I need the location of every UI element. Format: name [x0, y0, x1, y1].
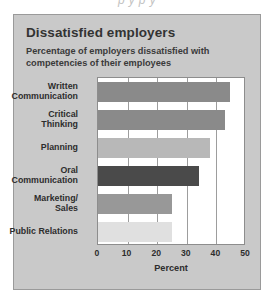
category-label: WrittenCommunication	[0, 81, 78, 101]
category-label: OralCommunication	[0, 165, 78, 185]
category-label: Marketing/Sales	[0, 193, 78, 213]
x-tick-label: 0	[95, 248, 100, 258]
clipped-caption-above-figure: p y p y	[0, 0, 274, 13]
bar	[98, 110, 225, 130]
bar-row	[98, 106, 246, 134]
bar	[98, 138, 210, 158]
bar-row	[98, 162, 246, 190]
chart-card: Dissatisfied employers Percentage of emp…	[13, 14, 261, 290]
category-label: CriticalThinking	[0, 109, 78, 129]
chart-subtitle: Percentage of employers dissatisfied wit…	[26, 46, 248, 69]
x-tick-label: 30	[181, 248, 191, 258]
clipped-caption-text: p y p y	[118, 0, 156, 7]
x-tick-label: 50	[240, 248, 250, 258]
bar	[98, 194, 172, 214]
bar	[98, 166, 199, 186]
bar-row	[98, 218, 246, 246]
bar	[98, 222, 172, 242]
x-tick-label: 20	[151, 248, 161, 258]
bar-row	[98, 78, 246, 106]
bar-row	[98, 190, 246, 218]
x-axis-title: Percent	[97, 263, 245, 273]
x-tick-label: 40	[211, 248, 221, 258]
x-tick-label: 10	[122, 248, 132, 258]
category-label: Public Relations	[0, 226, 78, 236]
bar-row	[98, 134, 246, 162]
plot-area	[97, 77, 245, 245]
bar	[98, 82, 230, 102]
category-label: Planning	[0, 142, 78, 152]
chart-title: Dissatisfied employers	[26, 25, 175, 40]
plot-area-wrapper	[97, 77, 245, 245]
